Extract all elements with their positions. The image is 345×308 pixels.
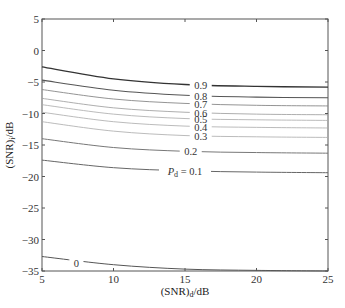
y-tick-label: −15 xyxy=(22,139,40,151)
contour-label-0-2: 0.2 xyxy=(184,146,197,157)
axis-ticks: 51015202550−5−10−15−20−25−30−35 xyxy=(22,13,334,285)
contour-labels: 0.90.80.70.60.50.40.30.2Pd = 0.10 xyxy=(74,80,208,269)
y-tick-label: 0 xyxy=(34,45,40,57)
y-tick-label: −20 xyxy=(22,171,40,183)
contour-label-0-9: 0.9 xyxy=(194,80,207,91)
contour-line-0-8 xyxy=(42,80,328,98)
contour-chart: 0.90.80.70.60.50.40.30.2Pd = 0.10 510152… xyxy=(0,0,345,308)
x-tick-label: 15 xyxy=(180,273,192,285)
contour-label-0: 0 xyxy=(74,258,79,269)
y-tick-label: −5 xyxy=(27,76,39,88)
plot-area-border xyxy=(42,19,328,271)
plot-frame xyxy=(42,19,328,271)
y-tick-label: −10 xyxy=(22,108,40,120)
y-tick-label: −35 xyxy=(22,265,40,277)
x-tick-label: 20 xyxy=(251,273,263,285)
y-tick-label: −30 xyxy=(22,234,40,246)
contour-line-0-6 xyxy=(42,98,328,114)
contour-label-0-3: 0.3 xyxy=(194,131,207,142)
x-tick-label: 10 xyxy=(108,273,120,285)
contour-label-0-1: Pd = 0.1 xyxy=(167,166,203,179)
x-axis-label: (SNR)d/dB xyxy=(161,285,210,299)
contour-line-0-3 xyxy=(42,122,328,138)
y-tick-label: −25 xyxy=(22,202,40,214)
contour-line-0-9 xyxy=(42,67,328,87)
y-tick-label: 5 xyxy=(34,13,40,25)
x-tick-label: 25 xyxy=(323,273,335,285)
x-tick-label: 5 xyxy=(39,273,45,285)
y-axis-label: (SNR)i/dB xyxy=(3,122,17,169)
